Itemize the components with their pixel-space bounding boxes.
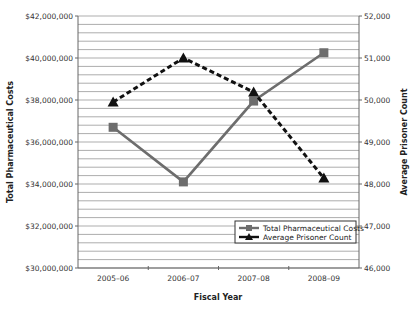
chart-legend: Total Pharmaceutical CostsAverage Prison… <box>235 221 364 243</box>
x-tick-label: 2008–09 <box>308 274 341 283</box>
x-tick-label: 2005–06 <box>97 274 130 283</box>
y2-tick-label: 47,000 <box>364 222 390 231</box>
dual-axis-line-chart: $30,000,000$32,000,000$34,000,000$36,000… <box>0 0 416 310</box>
left-y-axis-title: Total Pharmaceutical Costs <box>6 81 15 203</box>
left-y-axis-ticks: $30,000,000$32,000,000$34,000,000$36,000… <box>25 12 78 273</box>
x-tick-label: 2007–08 <box>237 274 270 283</box>
y-tick-label: $36,000,000 <box>25 138 73 147</box>
y2-tick-label: 46,000 <box>364 264 390 273</box>
x-tick-label: 2006–07 <box>167 274 200 283</box>
y2-tick-label: 52,000 <box>364 12 390 21</box>
legend-label: Total Pharmaceutical Costs <box>262 224 364 233</box>
y-tick-label: $40,000,000 <box>25 54 73 63</box>
right-y-axis-ticks: 46,00047,00048,00049,00050,00051,00052,0… <box>359 12 390 273</box>
square-marker <box>109 123 118 132</box>
right-y-axis-title: Average Prisoner Count <box>400 88 409 195</box>
triangle-marker <box>178 53 189 63</box>
x-axis-title: Fiscal Year <box>194 293 243 302</box>
y2-tick-label: 51,000 <box>364 54 390 63</box>
y2-tick-label: 48,000 <box>364 180 390 189</box>
y2-tick-label: 49,000 <box>364 138 390 147</box>
y-tick-label: $42,000,000 <box>25 12 73 21</box>
y-tick-label: $30,000,000 <box>25 264 73 273</box>
square-marker <box>179 177 188 186</box>
x-axis-ticks: 2005–062006–072007–082008–09 <box>97 266 340 283</box>
y-tick-label: $38,000,000 <box>25 96 73 105</box>
square-icon <box>246 225 252 231</box>
triangle-marker <box>108 97 119 107</box>
series-total-pharmaceutical-costs <box>109 48 329 186</box>
y-tick-label: $34,000,000 <box>25 180 73 189</box>
y2-tick-label: 50,000 <box>364 96 390 105</box>
legend-label: Average Prisoner Count <box>263 233 351 242</box>
data-series <box>108 48 330 186</box>
y-tick-label: $32,000,000 <box>25 222 73 231</box>
square-marker <box>319 48 328 57</box>
square-marker <box>249 97 258 106</box>
